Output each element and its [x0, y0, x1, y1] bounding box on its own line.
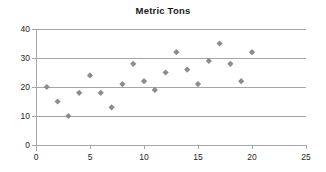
data-point — [44, 84, 50, 90]
x-tick-label-25: 25 — [294, 152, 318, 162]
data-point — [119, 81, 125, 87]
x-tick-label-20: 20 — [240, 152, 264, 162]
x-tick-label-10: 10 — [132, 152, 156, 162]
gridlines-group — [36, 30, 306, 117]
data-point — [227, 61, 233, 67]
data-point — [141, 78, 147, 84]
y-tick-label-40: 40 — [0, 24, 30, 34]
x-tick-label-15: 15 — [186, 152, 210, 162]
data-point — [217, 40, 223, 46]
y-tick-label-20: 20 — [0, 82, 30, 92]
data-point — [195, 81, 201, 87]
plot-area — [36, 29, 306, 145]
data-point — [76, 90, 82, 96]
y-tick-label-30: 30 — [0, 53, 30, 63]
data-point — [98, 90, 104, 96]
y-tick-label-10: 10 — [0, 111, 30, 121]
data-point — [249, 49, 255, 55]
axis-lines-group — [36, 29, 306, 151]
data-point — [87, 72, 93, 78]
data-point — [238, 78, 244, 84]
data-point — [65, 113, 71, 119]
data-markers-group — [44, 40, 255, 119]
data-point — [163, 69, 169, 75]
chart-title: Metric Tons — [0, 5, 326, 16]
plot-svg — [36, 29, 306, 145]
x-tick-label-5: 5 — [78, 152, 102, 162]
scatter-chart: Metric Tons 010203040 0510152025 — [0, 0, 326, 172]
data-point — [130, 61, 136, 67]
x-tick-label-0: 0 — [24, 152, 48, 162]
data-point — [184, 67, 190, 73]
data-point — [109, 104, 115, 110]
tick-marks-group — [32, 30, 307, 150]
data-point — [173, 49, 179, 55]
data-point — [55, 98, 61, 104]
y-tick-label-0: 0 — [0, 140, 30, 150]
